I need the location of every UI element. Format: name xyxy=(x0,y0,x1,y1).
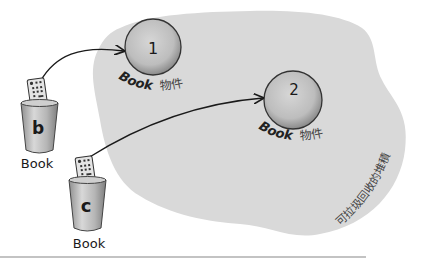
variable-name-b: b xyxy=(32,118,44,138)
reference-variable-c[interactable]: c xyxy=(69,156,106,231)
reference-variable-b[interactable]: b xyxy=(21,78,58,153)
diagram-canvas: 1 Book 物件 2 Book 物件 xyxy=(0,0,421,264)
object-number-1: 1 xyxy=(148,39,158,58)
book-object-2[interactable]: 2 xyxy=(264,71,322,129)
reference-type-label-c: Book xyxy=(73,236,106,251)
object-number-2: 2 xyxy=(289,81,299,99)
variable-name-c: c xyxy=(81,195,92,216)
reference-type-label-b: Book xyxy=(21,156,54,171)
book-object-1[interactable]: 1 xyxy=(125,19,181,75)
